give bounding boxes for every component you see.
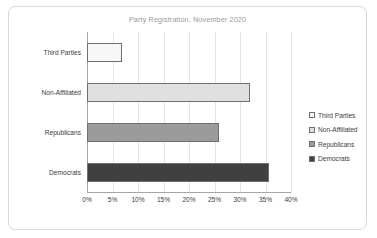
legend-swatch-icon xyxy=(309,141,315,147)
legend-item[interactable]: Democrats xyxy=(309,152,375,167)
legend-item[interactable]: Non-Affiliated xyxy=(309,123,375,138)
x-tick-label: 25% xyxy=(208,196,221,203)
legend-item[interactable]: Third Parties xyxy=(309,108,375,123)
legend-label: Democrats xyxy=(318,155,350,162)
x-tick-label: 15% xyxy=(157,196,170,203)
category-label: Non-Affiliated xyxy=(42,89,81,96)
x-tick-label: 10% xyxy=(131,196,144,203)
bar-row: Republicans xyxy=(87,113,291,153)
chart-title: Party Registration, November 2020 xyxy=(9,15,366,24)
x-tick-label: 35% xyxy=(259,196,272,203)
bar[interactable] xyxy=(87,83,250,102)
bar-row: Non-Affiliated xyxy=(87,72,291,112)
x-tick-label: 20% xyxy=(182,196,195,203)
bar-row: Third Parties xyxy=(87,32,291,72)
x-tick-label: 0% xyxy=(82,196,92,203)
plot-area: Third PartiesNon-AffiliatedRepublicansDe… xyxy=(87,32,291,193)
bar[interactable] xyxy=(87,43,122,62)
legend-label: Non-Affiliated xyxy=(318,126,357,133)
legend-item[interactable]: Republicans xyxy=(309,137,375,152)
chart-frame: Party Registration, November 2020 Third … xyxy=(8,6,367,230)
bar[interactable] xyxy=(87,123,219,142)
legend-swatch-icon xyxy=(309,156,315,162)
x-tick-label: 40% xyxy=(284,196,297,203)
bar-row: Democrats xyxy=(87,153,291,193)
category-label: Third Parties xyxy=(44,49,81,56)
category-label: Democrats xyxy=(49,169,81,176)
bar[interactable] xyxy=(87,163,269,182)
category-label: Republicans xyxy=(45,129,81,136)
chart-legend: Third PartiesNon-AffiliatedRepublicansDe… xyxy=(309,108,375,166)
gridline xyxy=(291,32,292,193)
x-tick-label: 5% xyxy=(108,196,118,203)
x-tick-label: 30% xyxy=(233,196,246,203)
legend-swatch-icon xyxy=(309,127,315,133)
legend-label: Republicans xyxy=(318,141,354,148)
legend-label: Third Parties xyxy=(318,112,355,119)
legend-swatch-icon xyxy=(309,112,315,118)
